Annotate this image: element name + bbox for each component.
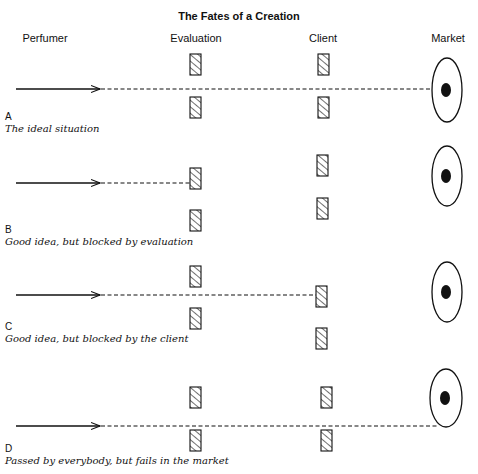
- evaluation-gate-upper: [190, 387, 201, 408]
- column-headers: Perfumer Evaluation Client Market: [22, 32, 464, 44]
- evaluation-gate-upper: [190, 168, 201, 189]
- column-label-perfumer: Perfumer: [22, 32, 68, 44]
- scenario-letter: B: [5, 224, 12, 235]
- evaluation-gate-lower: [190, 308, 201, 329]
- client-gate-upper: [318, 54, 329, 75]
- evaluation-gate-lower: [190, 210, 201, 231]
- column-label-market: Market: [431, 32, 465, 44]
- scenario-caption: The ideal situation: [5, 123, 100, 134]
- scenario-a: AThe ideal situation: [5, 54, 462, 134]
- market-bullseye-icon: [440, 391, 450, 405]
- client-gate-upper: [321, 387, 332, 408]
- client-gate-lower: [318, 97, 329, 118]
- column-label-evaluation: Evaluation: [170, 32, 221, 44]
- market-bullseye-icon: [441, 169, 451, 183]
- column-label-client: Client: [309, 32, 337, 44]
- scenario-caption: Good idea, but blocked by evaluation: [5, 236, 193, 247]
- client-gate-lower: [316, 328, 327, 349]
- evaluation-gate-lower: [190, 97, 201, 118]
- scenario-letter: D: [5, 443, 12, 454]
- scenario-c: CGood idea, but blocked by the client: [5, 262, 462, 349]
- scenario-letter: A: [5, 111, 12, 122]
- scenario-letter: C: [5, 321, 12, 332]
- evaluation-gate-upper: [190, 54, 201, 75]
- evaluation-gate-upper: [190, 266, 201, 287]
- scenario-b: BGood idea, but blocked by evaluation: [5, 146, 462, 247]
- scenario-caption: Good idea, but blocked by the client: [5, 333, 189, 344]
- market-bullseye-icon: [441, 285, 451, 299]
- scenario-rows: AThe ideal situationBGood idea, but bloc…: [4, 54, 462, 466]
- diagram-title: The Fates of a Creation: [178, 10, 300, 22]
- client-gate-upper: [317, 155, 328, 176]
- market-bullseye-icon: [441, 83, 451, 97]
- client-gate-lower: [317, 198, 328, 219]
- fates-of-creation-diagram: The Fates of a Creation Perfumer Evaluat…: [0, 0, 478, 474]
- client-gate-upper: [316, 286, 327, 307]
- scenario-caption: Passed by everybody, but fails in the ma…: [4, 455, 230, 466]
- client-gate-lower: [321, 430, 332, 451]
- scenario-d: DPassed by everybody, but fails in the m…: [4, 369, 462, 466]
- evaluation-gate-lower: [190, 430, 201, 451]
